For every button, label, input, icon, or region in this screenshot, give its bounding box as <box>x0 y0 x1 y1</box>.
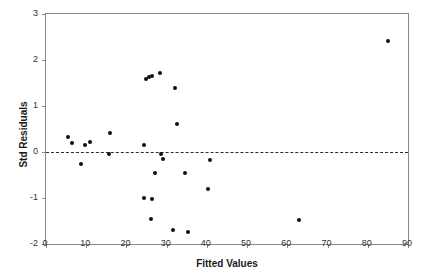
data-point <box>386 39 390 43</box>
data-point <box>171 228 175 232</box>
data-point <box>108 131 112 135</box>
residual-scatter-chart: Fitted Values Std Residuals 010203040506… <box>0 0 422 279</box>
data-point <box>66 135 70 139</box>
data-point <box>173 86 177 90</box>
data-point <box>83 143 87 147</box>
data-point <box>159 152 163 156</box>
x-axis-tick-label: 30 <box>161 238 171 248</box>
x-axis-tick-label: 60 <box>281 238 291 248</box>
x-axis-tick-label: 80 <box>362 238 372 248</box>
data-point <box>161 157 165 161</box>
x-axis-tick-label: 0 <box>42 238 47 248</box>
data-point <box>183 171 187 175</box>
y-axis-tick <box>42 198 46 199</box>
y-axis-tick-label: 0 <box>24 146 38 156</box>
data-point <box>79 162 83 166</box>
data-point <box>107 152 111 156</box>
data-point <box>208 158 212 162</box>
x-axis-tick-label: 70 <box>322 238 332 248</box>
data-point <box>149 217 153 221</box>
y-axis-tick-label: 3 <box>24 8 38 18</box>
x-axis-tick-label: 50 <box>241 238 251 248</box>
y-axis-tick-label: -1 <box>24 192 38 202</box>
y-axis-tick <box>42 14 46 15</box>
y-axis-tick <box>42 60 46 61</box>
data-point <box>142 143 146 147</box>
y-axis-tick <box>42 152 46 153</box>
data-point <box>186 230 190 234</box>
x-axis-tick-label: 90 <box>402 238 412 248</box>
data-point <box>88 140 92 144</box>
data-point <box>142 196 146 200</box>
x-axis-tick-label: 20 <box>120 238 130 248</box>
x-axis-tick-label: 10 <box>80 238 90 248</box>
data-point <box>158 71 162 75</box>
data-point <box>153 171 157 175</box>
data-point <box>70 141 74 145</box>
plot-area <box>45 13 409 245</box>
data-point <box>150 74 154 78</box>
y-axis-tick-label: -2 <box>24 238 38 248</box>
x-axis-title: Fitted Values <box>45 258 409 269</box>
zero-reference-line <box>46 152 408 153</box>
data-point <box>206 187 210 191</box>
y-axis-tick-label: 1 <box>24 100 38 110</box>
data-point <box>150 197 154 201</box>
y-axis-title: Std Residuals <box>18 65 29 205</box>
data-point <box>297 218 301 222</box>
y-axis-tick <box>42 106 46 107</box>
x-axis-tick-label: 40 <box>201 238 211 248</box>
data-point <box>175 122 179 126</box>
y-axis-tick-label: 2 <box>24 54 38 64</box>
